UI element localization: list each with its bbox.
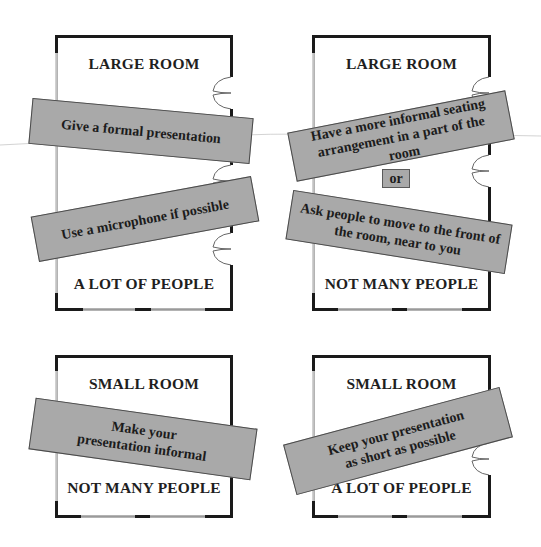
room-people-label: NOT MANY PEOPLE	[55, 479, 233, 497]
room-size-label: LARGE ROOM	[55, 55, 233, 73]
room-size-label: LARGE ROOM	[312, 55, 491, 73]
room-size-label: SMALL ROOM	[55, 375, 233, 393]
room-people-label: A LOT OF PEOPLE	[55, 275, 233, 293]
room-size-label: SMALL ROOM	[312, 375, 491, 393]
room-people-label: NOT MANY PEOPLE	[312, 275, 491, 293]
room-large-many-people: LARGE ROOM A LOT OF PEOPLE	[55, 35, 233, 311]
floor-plan-walls	[55, 35, 233, 311]
or-connector: or	[382, 169, 410, 188]
